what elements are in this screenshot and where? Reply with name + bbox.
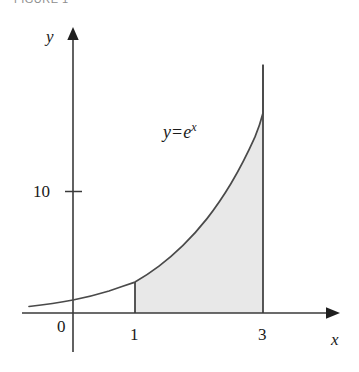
- equation-lhs: y: [163, 122, 171, 142]
- x-axis-label: x: [331, 331, 339, 348]
- y-axis-arrowhead: [67, 27, 78, 40]
- equation-exponent: x: [191, 120, 196, 134]
- y-axis-label: y: [46, 28, 54, 45]
- y-tick-label-10: 10: [33, 183, 50, 200]
- exponential-area-plot: [0, 0, 359, 372]
- x-tick-label-1: 1: [130, 326, 139, 343]
- curve-equation-label: y=ex: [163, 121, 196, 141]
- equation-base: e: [183, 122, 191, 142]
- origin-label: 0: [57, 318, 66, 335]
- shaded-area-under-curve: [135, 65, 263, 313]
- x-axis-arrowhead: [326, 307, 340, 318]
- equation-equals-sign: =: [171, 122, 183, 142]
- figure-container: FIGURE 1 y x 10 0 1 3 y=ex: [0, 0, 359, 372]
- x-tick-label-3: 3: [258, 326, 267, 343]
